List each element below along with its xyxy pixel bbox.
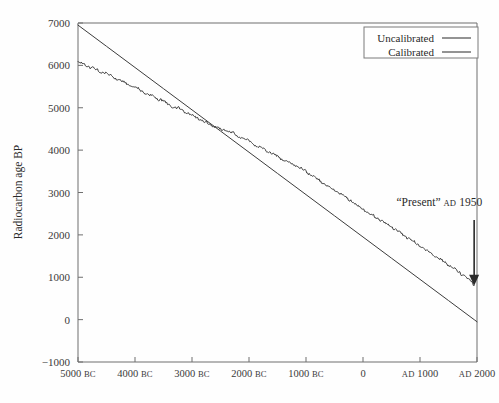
- annotation-label: “Present” AD 1950: [397, 196, 483, 208]
- x-tick-label: 2000 BC: [231, 368, 267, 379]
- y-tick-label: −1000: [42, 356, 71, 368]
- radiocarbon-calibration-chart: −100001000200030004000500060007000 5000 …: [0, 0, 499, 403]
- x-tick-label: 0: [360, 368, 365, 379]
- y-tick-label: 0: [65, 314, 71, 326]
- x-tick-label: 5000 BC: [60, 368, 96, 379]
- series-line-uncalibrated: [78, 25, 477, 322]
- legend-label-uncalibrated: Uncalibrated: [377, 32, 434, 44]
- present-annotation: “Present” AD 1950: [397, 196, 483, 286]
- x-tick-label: 3000 BC: [174, 368, 210, 379]
- y-tick-label: 2000: [48, 229, 71, 241]
- y-tick-label: 4000: [48, 144, 71, 156]
- axis-frame: [78, 23, 477, 362]
- x-tick-label: 4000 BC: [117, 368, 153, 379]
- x-tick-label: AD 1000: [402, 368, 438, 379]
- data-series-group: [78, 25, 477, 322]
- y-tick-label: 6000: [48, 59, 71, 71]
- y-tick-label: 5000: [48, 102, 71, 114]
- legend: UncalibratedCalibrated: [364, 27, 478, 58]
- x-tick-label: 1000 BC: [288, 368, 324, 379]
- plot-frame: [78, 23, 477, 362]
- y-axis-title: Radiocarbon age BP: [12, 145, 25, 240]
- x-tick-label: AD 2000: [459, 368, 495, 379]
- series-line-calibrated: [78, 62, 474, 286]
- y-tick-label: 7000: [48, 17, 71, 29]
- chart-canvas: −100001000200030004000500060007000 5000 …: [0, 0, 499, 403]
- y-axis: −100001000200030004000500060007000: [42, 17, 83, 368]
- x-axis: 5000 BC4000 BC3000 BC2000 BC1000 BC0AD 1…: [60, 357, 495, 379]
- legend-label-calibrated: Calibrated: [388, 46, 434, 58]
- y-tick-label: 1000: [48, 271, 71, 283]
- y-tick-label: 3000: [48, 187, 71, 199]
